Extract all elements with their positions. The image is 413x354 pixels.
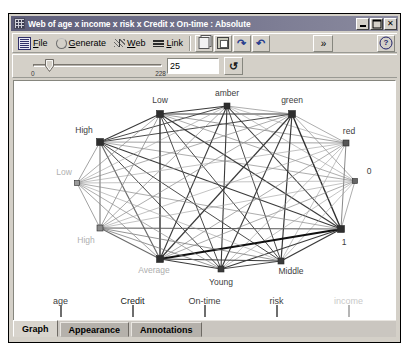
web-node-label: 1: [342, 237, 347, 247]
web-link[interactable]: [221, 261, 281, 269]
link-threshold-bar: 0 228 25 ↺: [12, 54, 397, 78]
web-link[interactable]: [160, 106, 227, 114]
legend: ageCreditOn-timeriskincome: [14, 296, 395, 316]
web-plot-canvas[interactable]: HighLowambergreenred01MiddleYoungAverage…: [13, 80, 396, 323]
copy-icon: [198, 37, 209, 49]
undo-button[interactable]: ↶: [252, 35, 270, 52]
redo-button[interactable]: ↷: [233, 35, 251, 52]
tab-label: Graph: [22, 324, 49, 334]
web-link[interactable]: [77, 183, 160, 259]
web-link[interactable]: [227, 106, 292, 114]
web-node[interactable]: [157, 256, 164, 263]
web-link[interactable]: [100, 142, 346, 143]
web-node-label: Average: [138, 265, 170, 275]
web-node-label: red: [343, 126, 356, 136]
web-node-label: Middle: [278, 266, 303, 276]
toolbar: FFileile Generate Web Link ↷ ↶ » ?: [12, 33, 397, 53]
copy-button[interactable]: [195, 35, 213, 52]
web-node[interactable]: [353, 179, 358, 184]
tab-label: Appearance: [69, 325, 121, 335]
legend-item-risk[interactable]: risk: [241, 296, 313, 316]
legend-swatch: [132, 305, 134, 317]
legend-swatch: [204, 305, 206, 317]
link-layer: [77, 106, 355, 269]
web-node[interactable]: [157, 111, 164, 118]
web-link[interactable]: [100, 228, 160, 259]
link-threshold-slider[interactable]: 0 228: [31, 57, 164, 77]
slider-min-label: 0: [31, 70, 35, 77]
web-link[interactable]: [77, 183, 281, 261]
legend-item-age[interactable]: age: [25, 296, 97, 316]
help-button[interactable]: ?: [377, 35, 395, 52]
web-node[interactable]: [75, 181, 80, 186]
web-graph-window: Web of age x income x risk x Credit x On…: [8, 13, 401, 343]
undo-icon: ↶: [256, 38, 265, 49]
redo-icon: ↷: [237, 38, 246, 49]
link-icon: [153, 38, 164, 49]
web-node[interactable]: [97, 225, 103, 231]
menu-web[interactable]: Web: [111, 35, 148, 51]
web-link[interactable]: [160, 114, 346, 143]
web-node-label: Low: [56, 167, 72, 177]
tab-strip: GraphAppearanceAnnotations: [13, 320, 204, 337]
web-icon: [114, 38, 125, 49]
web-node-label: green: [281, 95, 303, 105]
legend-swatch: [60, 305, 62, 317]
tab-graph[interactable]: Graph: [13, 320, 58, 337]
web-node[interactable]: [224, 103, 230, 109]
refresh-button[interactable]: ↺: [224, 57, 243, 75]
web-plot-svg: HighLowambergreenred01MiddleYoungAverage…: [14, 81, 395, 322]
web-link[interactable]: [221, 143, 346, 269]
paste-icon: [217, 37, 229, 49]
web-link[interactable]: [100, 142, 341, 229]
legend-item-credit[interactable]: Credit: [97, 296, 169, 316]
minimize-button[interactable]: [356, 18, 369, 30]
web-node[interactable]: [343, 140, 349, 146]
web-node[interactable]: [289, 111, 296, 118]
toolbar-separator: [189, 36, 191, 51]
legend-swatch: [276, 305, 278, 317]
window-title: Web of age x income x risk x Credit x On…: [28, 19, 355, 29]
maximize-button[interactable]: [370, 18, 383, 30]
tab-label: Annotations: [140, 325, 193, 335]
web-link[interactable]: [160, 114, 221, 269]
web-graph-icon: [14, 18, 25, 29]
web-node[interactable]: [278, 258, 284, 264]
slider-thumb[interactable]: [45, 59, 54, 72]
toolbar-overflow-button[interactable]: »: [313, 35, 333, 52]
tab-appearance[interactable]: Appearance: [60, 322, 130, 337]
legend-item-on-time[interactable]: On-time: [169, 296, 241, 316]
web-link[interactable]: [292, 114, 341, 229]
web-link[interactable]: [160, 259, 281, 261]
menu-link[interactable]: Link: [150, 35, 186, 51]
generate-icon: [56, 38, 67, 49]
tab-annotations[interactable]: Annotations: [131, 322, 202, 337]
web-node-label: High: [75, 125, 93, 135]
web-node-label: 0: [367, 166, 372, 176]
web-node[interactable]: [218, 266, 224, 272]
web-node-label: Young: [209, 277, 233, 287]
web-link[interactable]: [100, 114, 160, 228]
close-icon: ✕: [387, 20, 394, 28]
web-link[interactable]: [281, 181, 355, 261]
menu-file[interactable]: FFileile: [15, 35, 51, 51]
menu-generate[interactable]: Generate: [53, 35, 110, 51]
web-link[interactable]: [100, 228, 341, 229]
web-node-label: Low: [152, 95, 168, 105]
web-node[interactable]: [97, 139, 104, 146]
web-node[interactable]: [338, 226, 345, 233]
web-node-label: amber: [215, 88, 239, 98]
refresh-icon: ↺: [229, 61, 238, 72]
slider-max-label: 228: [155, 70, 166, 77]
chevron-double-right-icon: »: [321, 38, 327, 49]
paste-button[interactable]: [214, 35, 232, 52]
legend-swatch: [348, 305, 350, 317]
web-node-label: High: [77, 235, 95, 245]
close-button[interactable]: ✕: [384, 18, 397, 30]
legend-item-income[interactable]: income: [313, 296, 385, 316]
file-icon: [18, 37, 31, 50]
link-threshold-input[interactable]: 25: [167, 58, 219, 74]
help-icon: ?: [380, 37, 393, 50]
title-bar[interactable]: Web of age x income x risk x Credit x On…: [11, 16, 398, 31]
